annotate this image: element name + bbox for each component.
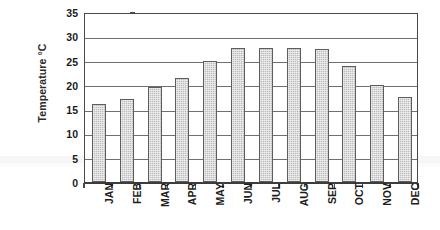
y-tick-label: 35 [54, 7, 78, 19]
x-tick-label-nov: NOV [381, 183, 393, 229]
x-tick-label-aug: AUG [298, 183, 310, 229]
bar-mar [148, 87, 162, 182]
x-tick-label-may: MAY [214, 183, 226, 229]
x-tick-label-mar: MAR [159, 183, 171, 229]
y-tick-label: 30 [54, 31, 78, 43]
x-tick-label-feb: FEB [131, 183, 143, 229]
gridline [85, 159, 417, 160]
x-tick-label-oct: OCT [353, 183, 365, 229]
y-axis-title: Temperature °C [36, 8, 50, 158]
y-tick-label: 10 [54, 128, 78, 140]
bar-oct [342, 66, 356, 182]
plot-area [84, 13, 418, 183]
y-tick-label: 15 [54, 104, 78, 116]
bar-nov [370, 85, 384, 182]
bar-jun [231, 48, 245, 182]
y-tick-label: 25 [54, 56, 78, 68]
y-tick-label: 0 [54, 177, 78, 189]
bar-dec [398, 97, 412, 182]
gridline [85, 38, 417, 39]
x-tick-label-jan: JAN [103, 183, 115, 229]
bar-may [203, 61, 217, 182]
x-tick-label-jun: JUN [242, 183, 254, 229]
bar-aug [287, 48, 301, 182]
temperature-bar-chart: Temperature °C 05101520253035 JANFEBMARA… [0, 0, 440, 230]
gridline [85, 135, 417, 136]
bar-jul [259, 48, 273, 182]
x-tick-label-apr: APR [186, 183, 198, 229]
x-tick-mark [83, 183, 85, 188]
gridline [85, 86, 417, 87]
bar-sep [315, 49, 329, 182]
x-tick-label-jul: JUL [270, 183, 282, 229]
gridline [85, 111, 417, 112]
bar-feb [120, 99, 134, 182]
x-tick-label-dec: DEC [409, 183, 421, 229]
bar-jan [92, 104, 106, 182]
x-tick-label-sep: SEP [326, 183, 338, 229]
gridline [85, 62, 417, 63]
y-tick-label: 5 [54, 153, 78, 165]
bar-apr [175, 78, 189, 182]
y-axis-ticks: 05101520253035 [50, 0, 78, 230]
y-tick-label: 20 [54, 80, 78, 92]
